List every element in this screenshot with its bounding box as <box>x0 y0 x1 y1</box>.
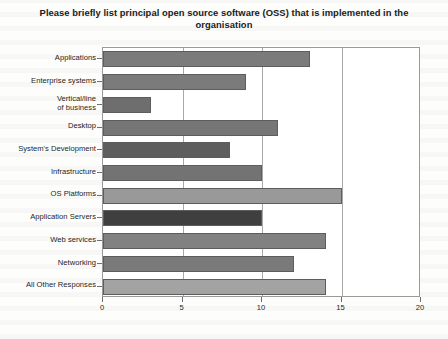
bar-all-other-responses[interactable] <box>103 279 326 295</box>
bar-row <box>103 142 420 158</box>
y-axis-label: Applications <box>0 54 96 63</box>
y-axis-label: OS Platforms <box>0 190 96 199</box>
bar-row <box>103 74 420 90</box>
x-axis-tick-5 <box>182 297 183 302</box>
x-axis-tick-label: 0 <box>90 303 114 312</box>
x-axis-tick-label: 10 <box>249 303 273 312</box>
bar-row <box>103 120 420 136</box>
x-axis-tick-label: 5 <box>170 303 194 312</box>
y-axis-label: Enterprise systems <box>0 77 96 86</box>
bar-row <box>103 233 420 249</box>
bar-enterprise-systems[interactable] <box>103 74 246 90</box>
bar-row <box>103 256 420 272</box>
x-axis-tick-label: 15 <box>329 303 353 312</box>
bar-application-servers[interactable] <box>103 210 262 226</box>
bar-row <box>103 51 420 67</box>
bars-container <box>103 48 419 296</box>
y-axis-label: Application Servers <box>0 213 96 222</box>
bar-networking[interactable] <box>103 256 294 272</box>
bar-row <box>103 188 420 204</box>
bar-infrastructure[interactable] <box>103 165 262 181</box>
bar-system-s-development[interactable] <box>103 142 230 158</box>
bar-applications[interactable] <box>103 51 310 67</box>
x-axis-tick-10 <box>261 297 262 302</box>
y-axis-label: Web services <box>0 236 96 245</box>
y-axis-label: Networking <box>0 259 96 268</box>
bar-vertical-line-of-business[interactable] <box>103 97 151 113</box>
bar-row <box>103 97 420 113</box>
bar-chart: Please briefly list principal open sourc… <box>0 0 448 339</box>
bar-desktop[interactable] <box>103 120 278 136</box>
bar-os-platforms[interactable] <box>103 188 342 204</box>
bar-row <box>103 165 420 181</box>
chart-title: Please briefly list principal open sourc… <box>28 7 420 32</box>
bar-row <box>103 210 420 226</box>
y-axis-category-labels: ApplicationsEnterprise systemsVertical/l… <box>0 47 96 297</box>
bar-web-services[interactable] <box>103 233 326 249</box>
x-axis-tick-15 <box>341 297 342 302</box>
y-axis-label: Infrastructure <box>0 168 96 177</box>
bar-row <box>103 279 420 295</box>
x-axis-tick-label: 20 <box>408 303 432 312</box>
y-axis-label: Vertical/lineof business <box>0 95 96 112</box>
y-axis-label: All Other Responses <box>0 281 96 290</box>
x-axis-tick-20 <box>420 297 421 302</box>
y-axis-label: System's Development <box>0 145 96 154</box>
plot-area <box>102 47 420 297</box>
y-axis-label: Desktop <box>0 122 96 131</box>
x-axis-tick-0 <box>102 297 103 302</box>
